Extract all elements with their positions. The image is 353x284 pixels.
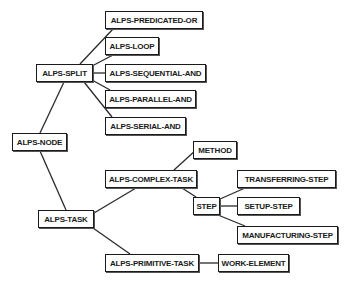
node-alps-predicated-or: ALPS-PREDICATED-OR: [105, 11, 203, 29]
node-alps-task: ALPS-TASK: [38, 210, 94, 228]
node-alps-primitive-task: ALPS-PRIMITIVE-TASK: [105, 254, 199, 272]
node-method: METHOD: [193, 141, 237, 159]
edge-alps-task-to-alps-primitive-task: [93, 228, 130, 254]
node-work-element: WORK-ELEMENT: [218, 254, 289, 272]
node-alps-parallel-and: ALPS-PARALLEL-AND: [105, 90, 196, 108]
node-alps-split: ALPS-SPLIT: [36, 64, 93, 82]
edge-alps-node-to-alps-task: [40, 151, 66, 210]
edge-alps-complex-task-to-step: [182, 188, 196, 197]
node-manufacturing-step: MANUFACTURING-STEP: [237, 226, 338, 244]
edge-alps-task-to-alps-complex-task: [94, 188, 136, 213]
edge-step-to-manufacturing-step: [218, 215, 245, 226]
node-transferring-step: TRANSFERRING-STEP: [237, 170, 336, 188]
node-alps-sequential-and: ALPS-SEQUENTIAL-AND: [105, 64, 206, 82]
node-alps-serial-and: ALPS-SERIAL-AND: [105, 117, 186, 135]
node-setup-step: SETUP-STEP: [237, 197, 300, 215]
node-alps-complex-task: ALPS-COMPLEX-TASK: [105, 170, 197, 188]
node-step: STEP: [193, 197, 220, 215]
node-alps-node: ALPS-NODE: [12, 133, 67, 151]
node-alps-loop: ALPS-LOOP: [105, 37, 159, 55]
edge-alps-node-to-alps-split: [40, 82, 64, 133]
